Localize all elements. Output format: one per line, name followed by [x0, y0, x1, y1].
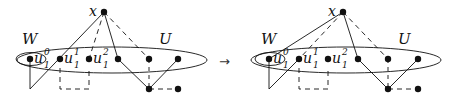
node-u10 [266, 56, 272, 62]
label-W: W [261, 30, 278, 48]
node-v6 [415, 56, 421, 62]
label-x: x [89, 3, 97, 19]
dashed-path-u11-u12 [299, 68, 328, 89]
label-u12-sup: 2 [102, 47, 109, 57]
node-x [101, 9, 107, 15]
label-W: W [22, 30, 39, 48]
label-u10-sub: 1 [44, 60, 50, 70]
label-u11-base: u [64, 50, 73, 66]
node-u11 [57, 56, 63, 62]
node-v5 [146, 56, 152, 62]
node-u12 [86, 56, 92, 62]
label-u11-sub: 1 [74, 60, 80, 70]
label-u12-sub: 1 [103, 60, 109, 70]
label-u12-base: u [93, 50, 102, 66]
edge-v4-b1 [118, 59, 149, 89]
node-v4 [355, 56, 361, 62]
label-u12-sup: 2 [341, 47, 348, 57]
label-u11-sub: 1 [313, 60, 319, 70]
node-v5 [385, 56, 391, 62]
node-v6 [175, 56, 181, 62]
edge-v4-b1 [358, 59, 388, 89]
label-u10-sup: 0 [44, 47, 50, 57]
label-u10-sup: 0 [283, 47, 289, 57]
label-u11-sup: 1 [313, 47, 319, 57]
edge-v6-b1 [388, 59, 418, 89]
node-v4 [115, 56, 121, 62]
graph-transformation-diagram: x W U u 0 1 u 1 1 u 2 1 → [0, 0, 449, 102]
label-x: x [328, 3, 336, 19]
node-b2 [415, 86, 421, 92]
label-U: U [398, 30, 412, 48]
label-u10-base: u [34, 50, 43, 66]
label-u12-base: u [332, 50, 341, 66]
node-b1 [385, 86, 391, 92]
edge-v6-b1 [149, 59, 178, 89]
transform-arrow: → [219, 54, 230, 69]
label-u11-sup: 1 [74, 47, 80, 57]
edge-x-v5-dashed [343, 12, 388, 59]
label-U: U [159, 30, 173, 48]
node-u12 [325, 56, 331, 62]
node-u11 [296, 56, 302, 62]
label-u10-sub: 1 [283, 60, 289, 70]
node-b1 [146, 86, 152, 92]
node-b2 [175, 86, 181, 92]
label-u11-base: u [303, 50, 312, 66]
node-u10 [27, 56, 33, 62]
label-u10-base: u [273, 50, 282, 66]
node-x [340, 9, 346, 15]
label-u12-sub: 1 [342, 60, 348, 70]
